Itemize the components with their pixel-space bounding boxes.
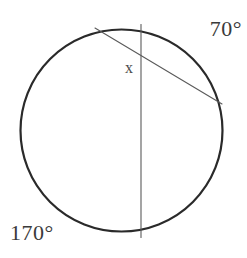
arc-label-top-right: 70° bbox=[210, 18, 242, 40]
geometry-figure: 70° 170° x bbox=[0, 0, 247, 258]
diagonal-chord bbox=[95, 28, 222, 104]
unknown-angle-label: x bbox=[125, 60, 133, 76]
circle-outline bbox=[21, 30, 223, 232]
arc-label-bottom-left: 170° bbox=[10, 222, 54, 244]
